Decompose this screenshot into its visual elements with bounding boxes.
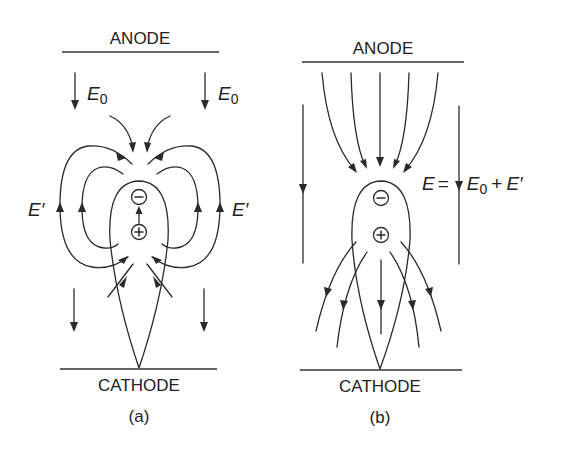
field-equation-b: E=E0+E′ (422, 173, 524, 197)
caption-a: (a) (129, 407, 150, 426)
vertical-field-line-right-b (455, 106, 463, 264)
negative-charge-b (374, 191, 389, 206)
applied-field-arrow-right-a (201, 73, 209, 110)
dipole-field-loops-a (56, 146, 224, 268)
anode-label-a: ANODE (110, 29, 170, 48)
e-prime-label-left-a: E′ (28, 199, 46, 220)
e0-label-left-a: E0 (87, 83, 108, 107)
positive-charge-b (374, 228, 389, 243)
streamer-field-diagram: ANODE E0 E0 (0, 0, 561, 451)
caption-b: (b) (370, 408, 391, 427)
e0-label-right-a: E0 (218, 83, 239, 107)
cathode-label-a: CATHODE (98, 376, 180, 395)
panel-b: ANODE E=E0+E′ (299, 39, 524, 427)
anode-label-b: ANODE (353, 39, 413, 58)
diverging-field-lines-b (316, 242, 441, 347)
converging-field-lines-b (322, 73, 438, 173)
converging-field-lines-a (110, 116, 170, 153)
panel-a: ANODE E0 E0 (28, 29, 250, 426)
applied-field-arrow-bottom-left-a (70, 289, 78, 332)
applied-field-arrow-left-a (71, 73, 79, 110)
applied-field-arrow-bottom-right-a (200, 289, 208, 332)
e-prime-label-right-a: E′ (232, 199, 250, 220)
positive-charge-a (132, 225, 147, 240)
negative-charge-a (132, 190, 147, 205)
internal-field-arrow-a (136, 206, 143, 223)
cathode-label-b: CATHODE (339, 377, 421, 396)
vertical-field-line-left-b (299, 105, 307, 263)
